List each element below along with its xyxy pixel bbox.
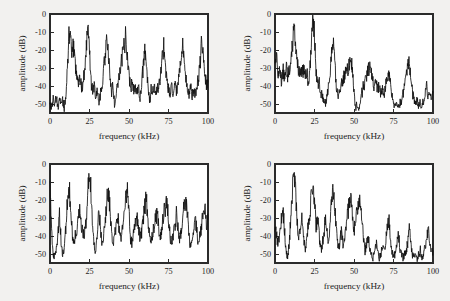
y-tick-label: -50 (35, 100, 46, 109)
y-tick-label: -40 (35, 82, 46, 91)
y-tick-label: 0 (267, 160, 271, 169)
y-tick-label: -10 (35, 178, 46, 187)
y-tick-label: -10 (260, 178, 271, 187)
y-tick-label: -10 (35, 28, 46, 37)
y-tick-label: -40 (260, 232, 271, 241)
y-axis-title: amplitude (dB) (17, 186, 27, 242)
spectrum-plot-bottom-right: 02550751000-10-20-30-40-50frequency (kHz… (225, 150, 450, 300)
y-tick-label: 0 (42, 10, 46, 19)
x-tick-label: 50 (350, 267, 358, 276)
spectrum-panel-bottom-left: 02550751000-10-20-30-40-50frequency (kHz… (0, 150, 225, 300)
x-tick-label: 100 (427, 267, 439, 276)
y-tick-label: -20 (35, 46, 46, 55)
spectrum-plot-top-left: 02550751000-10-20-30-40-50frequency (kHz… (0, 0, 225, 150)
x-tick-label: 50 (125, 117, 133, 126)
x-axis-title: frequency (kHz) (99, 281, 159, 291)
y-axis-title: amplitude (dB) (242, 36, 252, 92)
y-tick-label: -20 (260, 196, 271, 205)
x-tick-label: 25 (310, 117, 318, 126)
y-tick-label: -30 (260, 64, 271, 73)
x-tick-label: 25 (310, 267, 318, 276)
spectrum-plot-top-right: 02550751000-10-20-30-40-50frequency (kHz… (225, 0, 450, 150)
y-tick-label: -10 (260, 28, 271, 37)
x-tick-label: 0 (273, 267, 277, 276)
y-tick-label: -50 (260, 250, 271, 259)
y-tick-label: -50 (260, 100, 271, 109)
y-axis-title: amplitude (dB) (17, 36, 27, 92)
y-tick-label: 0 (267, 10, 271, 19)
spectrum-figure: 02550751000-10-20-30-40-50frequency (kHz… (0, 0, 450, 301)
x-tick-label: 75 (164, 117, 172, 126)
x-tick-label: 75 (389, 117, 397, 126)
y-tick-label: 0 (42, 160, 46, 169)
x-tick-label: 75 (164, 267, 172, 276)
plot-area (275, 164, 433, 263)
x-tick-label: 25 (85, 117, 93, 126)
spectrum-plot-bottom-left: 02550751000-10-20-30-40-50frequency (kHz… (0, 150, 225, 300)
y-axis-title: amplitude (dB) (242, 186, 252, 242)
y-tick-label: -40 (260, 82, 271, 91)
spectrum-panel-top-right: 02550751000-10-20-30-40-50frequency (kHz… (225, 0, 450, 150)
x-tick-label: 100 (427, 117, 439, 126)
x-tick-label: 75 (389, 267, 397, 276)
x-tick-label: 25 (85, 267, 93, 276)
x-axis-title: frequency (kHz) (324, 281, 384, 291)
y-tick-label: -20 (35, 196, 46, 205)
y-tick-label: -30 (35, 64, 46, 73)
spectrum-panel-bottom-right: 02550751000-10-20-30-40-50frequency (kHz… (225, 150, 450, 300)
x-tick-label: 0 (48, 267, 52, 276)
y-tick-label: -50 (35, 250, 46, 259)
y-tick-label: -30 (35, 214, 46, 223)
x-tick-label: 0 (48, 117, 52, 126)
x-tick-label: 50 (350, 117, 358, 126)
x-tick-label: 100 (202, 267, 214, 276)
y-tick-label: -30 (260, 214, 271, 223)
y-tick-label: -20 (260, 46, 271, 55)
x-tick-label: 100 (202, 117, 214, 126)
spectrum-panel-top-left: 02550751000-10-20-30-40-50frequency (kHz… (0, 0, 225, 150)
x-axis-title: frequency (kHz) (99, 131, 159, 141)
x-tick-label: 0 (273, 117, 277, 126)
x-tick-label: 50 (125, 267, 133, 276)
y-tick-label: -40 (35, 232, 46, 241)
x-axis-title: frequency (kHz) (324, 131, 384, 141)
